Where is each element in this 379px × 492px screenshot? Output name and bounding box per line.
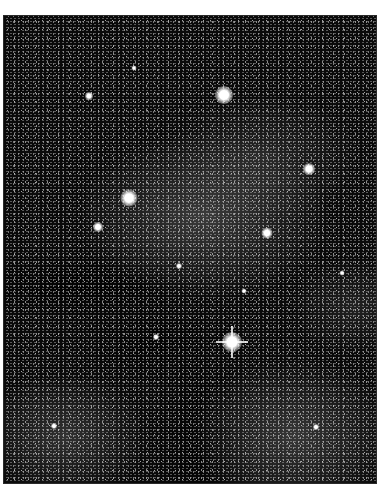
diffraction-spike bbox=[231, 326, 233, 358]
bright-star bbox=[153, 334, 159, 340]
faint-star-texture bbox=[4, 16, 376, 483]
bright-star bbox=[132, 66, 137, 71]
bright-star bbox=[93, 222, 103, 232]
bright-star bbox=[176, 263, 182, 269]
star-field-photo bbox=[3, 15, 377, 484]
bright-star bbox=[262, 228, 273, 239]
bright-star bbox=[215, 86, 233, 104]
bright-star bbox=[121, 190, 138, 207]
bright-star bbox=[303, 163, 315, 175]
bright-star bbox=[242, 289, 247, 294]
bright-star bbox=[51, 423, 57, 429]
bright-star bbox=[313, 424, 319, 430]
bright-star bbox=[85, 92, 93, 100]
bright-star bbox=[340, 271, 345, 276]
